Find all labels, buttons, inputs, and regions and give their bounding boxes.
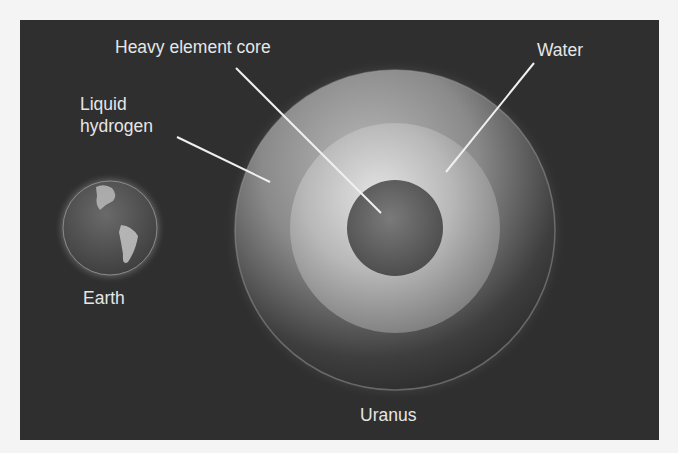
earth-label: Earth [83, 288, 125, 308]
water-label: Water [537, 40, 583, 60]
earth-planet [54, 172, 166, 284]
uranus-label: Uranus [360, 405, 416, 425]
liquid-hydrogen-label-line2: hydrogen [80, 116, 153, 136]
liquid-hydrogen-label-line1: Liquid [80, 94, 127, 114]
diagram-panel: Heavy element core Water Liquid hydrogen… [20, 20, 659, 440]
uranus-planet [223, 58, 567, 402]
heavy-element-core-label: Heavy element core [115, 37, 271, 57]
diagram-canvas [20, 20, 659, 440]
